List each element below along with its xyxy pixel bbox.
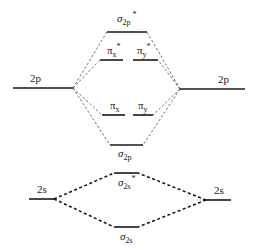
connector-right-sigma2s-star (138, 173, 206, 200)
connector-right-piy (153, 89, 180, 115)
2p-connectors (73, 32, 180, 145)
connector-left-pix-star (73, 60, 100, 88)
connector-left-sigma2s-star (54, 173, 114, 199)
sigma2s-star-label: σ2s* (118, 174, 136, 191)
left-2s-label: 2s (37, 183, 47, 195)
right-2s-label: 2s (214, 184, 224, 196)
molecular-orbitals: σ2p* πx* πy* πx πy σ2p σ2s* (100, 10, 158, 245)
piy-star-label: πy* (137, 42, 151, 59)
connector-right-piy-star (158, 60, 180, 89)
sigma2p-star-label: σ2p* (117, 10, 136, 27)
connector-left-sigma2s (54, 199, 114, 227)
connector-right-sigma2p (143, 89, 180, 145)
atomic-orbitals: 2p 2p 2s 2s (13, 72, 245, 200)
sigma2p-label: σ2p (118, 147, 131, 162)
mo-energy-diagram: 2p 2p 2s 2s σ2p* πx* (0, 0, 253, 250)
connector-right-sigma2s (138, 200, 206, 227)
piy-label: πy (138, 99, 148, 114)
sigma2s-label: σ2s (120, 230, 133, 245)
pix-star-label: πx* (107, 42, 121, 59)
right-2p-label: 2p (218, 73, 230, 85)
pix-label: πx (110, 99, 120, 114)
left-2p-label: 2p (30, 72, 42, 84)
connector-left-sigma2p (73, 88, 110, 145)
